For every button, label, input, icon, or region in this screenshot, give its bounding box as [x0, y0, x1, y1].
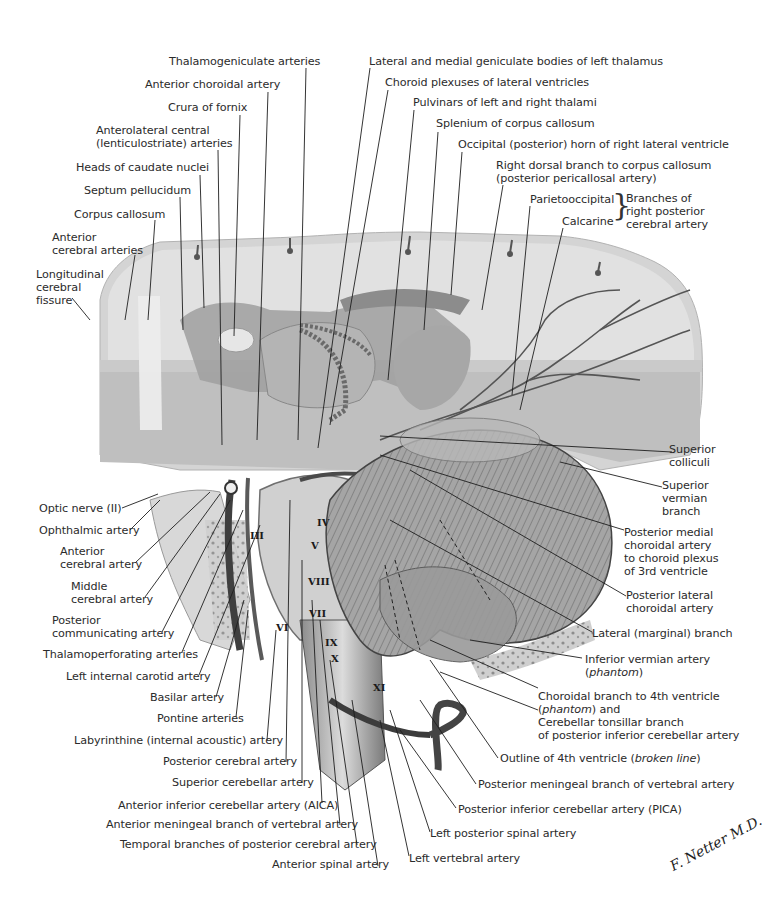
label-line-2: (posterior pericallosal artery)	[496, 172, 711, 185]
label-line-3: branch	[662, 505, 709, 518]
label-branches-group: Branches of right posterior cerebral art…	[626, 192, 708, 231]
numeral-ix: IX	[325, 637, 337, 648]
label-right-dorsal-branch: Right dorsal branch to corpus callosum (…	[496, 159, 711, 185]
label-line-2: right posterior	[626, 205, 708, 218]
numeral-x: X	[331, 653, 339, 664]
numeral-xi: XI	[373, 682, 385, 693]
numeral-vii: VII	[309, 608, 326, 619]
label-left-vertebral: Left vertebral artery	[409, 852, 520, 865]
label-outline-4th: Outline of 4th ventricle (broken line)	[500, 752, 701, 765]
label-anterolateral-central: Anterolateral central (lenticulostriate)…	[96, 124, 233, 150]
label-inferior-vermian: Inferior vermian artery (phantom)	[585, 653, 710, 679]
label-line-1: Longitudinal	[36, 268, 104, 281]
italic-broken-line: broken line	[635, 752, 697, 765]
label-left-internal-carotid: Left internal carotid artery	[66, 670, 211, 683]
label-line-1: Branches of	[626, 192, 708, 205]
italic-phantom: phantom	[589, 666, 639, 679]
label-ophthalmic: Ophthalmic artery	[39, 524, 139, 537]
label-anterior-cerebral-artery: Anterior cerebral artery	[60, 545, 142, 571]
label-line-1: Posterior medial	[624, 526, 719, 539]
cerebrum-section	[100, 232, 703, 470]
label-superior-cerebellar: Superior cerebellar artery	[172, 776, 314, 789]
numeral-iii: III	[250, 530, 264, 541]
label-text: Outline of 4th ventricle (	[500, 752, 635, 765]
label-line-2: cerebral artery	[71, 593, 153, 606]
label-line-1: Superior	[669, 443, 716, 456]
label-heads-caudate: Heads of caudate nuclei	[76, 161, 209, 174]
label-line-2: communicating artery	[52, 627, 174, 640]
label-aica: Anterior inferior cerebellar artery (AIC…	[118, 799, 338, 812]
label-middle-cerebral: Middle cerebral artery	[71, 580, 153, 606]
label-posterior-medial-choroidal: Posterior medial choroidal artery to cho…	[624, 526, 719, 578]
label-temporal-branches: Temporal branches of posterior cerebral …	[120, 838, 377, 851]
label-line-2: (phantom)	[585, 666, 710, 679]
label-posterior-lateral-choroidal: Posterior lateral choroidal artery	[626, 589, 713, 615]
label-line-2: (phantom) and	[538, 703, 739, 716]
label-pontine: Pontine arteries	[157, 712, 244, 725]
label-line-2: (lenticulostriate) arteries	[96, 137, 233, 150]
label-posterior-cerebral: Posterior cerebral artery	[163, 755, 297, 768]
label-posterior-meningeal: Posterior meningeal branch of vertebral …	[478, 778, 734, 791]
italic-phantom: phantom	[542, 703, 592, 716]
label-pica: Posterior inferior cerebellar artery (PI…	[458, 803, 682, 816]
label-line-1: Middle	[71, 580, 153, 593]
label-superior-vermian: Superior vermian branch	[662, 479, 709, 518]
label-lateral-marginal: Lateral (marginal) branch	[592, 627, 733, 640]
label-pulvinars: Pulvinars of left and right thalami	[413, 96, 597, 109]
label-labyrinthine: Labyrinthine (internal acoustic) artery	[74, 734, 283, 747]
label-line-2: cerebral arteries	[52, 244, 143, 257]
label-septum-pellucidum: Septum pellucidum	[84, 184, 191, 197]
label-anterior-cerebral-arteries: Anterior cerebral arteries	[52, 231, 143, 257]
label-line-2: vermian	[662, 492, 709, 505]
label-line-1: Superior	[662, 479, 709, 492]
label-anterior-meningeal: Anterior meningeal branch of vertebral a…	[106, 818, 358, 831]
label-superior-colliculi: Superior colliculi	[669, 443, 716, 469]
label-corpus-callosum: Corpus callosum	[74, 208, 165, 221]
label-tail: )	[696, 752, 700, 765]
label-optic-nerve: Optic nerve (II)	[39, 502, 121, 515]
label-choroidal-4th: Choroidal branch to 4th ventricle (phant…	[538, 690, 739, 742]
label-anterior-spinal: Anterior spinal artery	[272, 858, 389, 871]
label-line-1: Posterior	[52, 614, 174, 627]
label-left-posterior-spinal: Left posterior spinal artery	[430, 827, 576, 840]
label-line-2: choroidal artery	[624, 539, 719, 552]
label-line-1: Choroidal branch to 4th ventricle	[538, 690, 739, 703]
label-basilar: Basilar artery	[150, 691, 224, 704]
label-posterior-communicating: Posterior communicating artery	[52, 614, 174, 640]
label-line-2: colliculi	[669, 456, 716, 469]
label-line-3: Cerebellar tonsillar branch	[538, 716, 739, 729]
label-thalamogeniculate: Thalamogeniculate arteries	[169, 55, 320, 68]
label-line-1: Anterior	[60, 545, 142, 558]
numeral-v: V	[311, 540, 319, 551]
label-line-1: Anterior	[52, 231, 143, 244]
label-crura-fornix: Crura of fornix	[168, 101, 247, 114]
label-longitudinal-fissure: Longitudinal cerebral fissure	[36, 268, 104, 307]
label-line-3: cerebral artery	[626, 218, 708, 231]
label-line-3: to choroid plexus	[624, 552, 719, 565]
label-line-4: of posterior inferior cerebellar artery	[538, 729, 739, 742]
anatomical-figure: III IV V VI VII VIII IX X XI Thalamogeni…	[0, 0, 769, 924]
label-splenium: Splenium of corpus callosum	[436, 117, 595, 130]
numeral-vi: VI	[276, 622, 288, 633]
label-line-2: cerebral artery	[60, 558, 142, 571]
label-thalamoperforating: Thalamoperforating arteries	[43, 648, 198, 661]
label-geniculate-bodies: Lateral and medial geniculate bodies of …	[369, 55, 663, 68]
label-line-1: Inferior vermian artery	[585, 653, 710, 666]
label-line-2: choroidal artery	[626, 602, 713, 615]
label-calcarine: Calcarine	[562, 215, 614, 228]
label-tail: ) and	[592, 703, 620, 716]
label-line-1: Posterior lateral	[626, 589, 713, 602]
label-line-1: Right dorsal branch to corpus callosum	[496, 159, 711, 172]
label-occipital-horn: Occipital (posterior) horn of right late…	[458, 138, 729, 151]
numeral-iv: IV	[317, 517, 329, 528]
label-line-2: cerebral	[36, 281, 104, 294]
label-line-3: fissure	[36, 294, 104, 307]
label-parietooccipital: Parietooccipital	[530, 193, 614, 206]
numeral-viii: VIII	[308, 576, 330, 587]
label-anterior-choroidal: Anterior choroidal artery	[145, 78, 280, 91]
label-line-1: Anterolateral central	[96, 124, 233, 137]
label-choroid-plexuses: Choroid plexuses of lateral ventricles	[385, 76, 589, 89]
label-line-4: of 3rd ventricle	[624, 565, 719, 578]
